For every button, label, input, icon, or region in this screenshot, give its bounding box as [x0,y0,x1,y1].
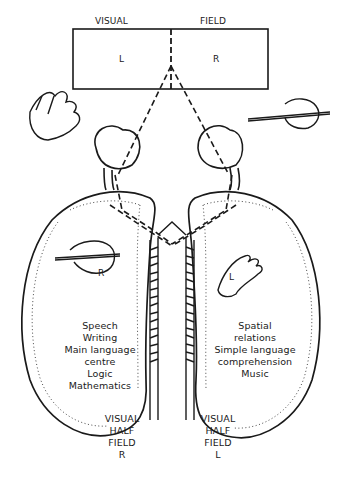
writing-hand-icon [55,241,120,273]
half-field-word: VISUAL [198,413,238,425]
function-comprehension: comprehension [210,356,300,368]
function-main-language: Main language [60,344,140,356]
half-field-word: L [198,449,238,461]
left-hemisphere-outline [22,192,155,436]
right-eye-icon [198,126,243,190]
right-hemisphere-outline [189,192,320,438]
half-field-word: FIELD [102,437,142,449]
function-spatial: Spatial [210,320,300,332]
half-field-word: R [102,449,142,461]
half-field-word: HALF [102,425,142,437]
function-centre: centre [60,356,140,368]
half-field-word: HALF [198,425,238,437]
function-simple-language: Simple language [210,344,300,356]
right-hand-pen-icon [248,99,330,129]
half-field-word: FIELD [198,437,238,449]
left-functions: Speech Writing Main language centre Logi… [60,320,140,392]
function-relations: relations [210,332,300,344]
brain-diagram [0,0,344,494]
right-functions: Spatial relations Simple language compre… [210,320,300,380]
right-hand-label: L [229,272,234,283]
left-eye-icon [95,126,140,190]
left-half-field: VISUAL HALF FIELD R [102,413,142,461]
right-half-field: VISUAL HALF FIELD L [198,413,238,461]
left-hand-open-icon [30,92,80,140]
half-field-word: VISUAL [102,413,142,425]
function-mathematics: Mathematics [60,380,140,392]
function-speech: Speech [60,320,140,332]
visual-header: VISUAL [95,16,128,27]
corpus-callosum [150,222,194,420]
left-hand-label: R [98,268,104,279]
cortex-stipple [32,201,312,428]
open-hand-icon [218,255,262,296]
function-writing: Writing [60,332,140,344]
field-header: FIELD [200,16,226,27]
function-logic: Logic [60,368,140,380]
function-music: Music [210,368,300,380]
left-field-label: L [119,54,124,65]
right-field-label: R [213,54,219,65]
sight-lines [110,66,236,246]
